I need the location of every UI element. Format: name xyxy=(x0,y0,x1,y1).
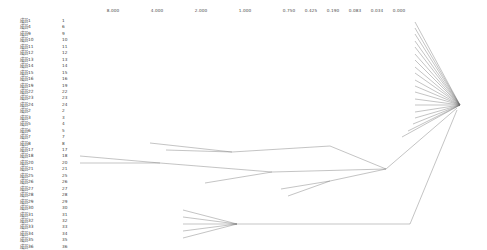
scale-tick-2: 2.000 xyxy=(195,8,208,13)
leaf-row[interactable]: 成员3636 xyxy=(0,244,80,250)
tree-edge xyxy=(415,28,460,105)
tree-edge xyxy=(410,110,457,224)
tree-edge xyxy=(415,80,460,105)
tree-edge xyxy=(415,54,460,105)
tree-edge xyxy=(402,105,460,137)
tree-edge xyxy=(415,99,460,105)
tree-edge xyxy=(415,105,460,118)
tree-edge xyxy=(272,169,386,172)
tree-edge xyxy=(232,146,330,152)
scale-tick-1: 4.000 xyxy=(151,8,164,13)
tree-edge xyxy=(183,210,237,224)
tree-edge xyxy=(415,34,460,105)
scale-tick-3: 1.000 xyxy=(239,8,252,13)
tree-edge xyxy=(160,163,272,172)
scale-tick-8: 0.034 xyxy=(371,8,384,13)
tree-edge xyxy=(415,47,460,105)
tree-edge xyxy=(205,172,272,183)
tree-edge xyxy=(415,92,460,105)
tree-edge xyxy=(281,181,330,189)
tree-edge xyxy=(166,150,232,152)
tree-edge xyxy=(415,41,460,105)
tree-edge xyxy=(415,60,460,105)
scale-tick-5: 0.425 xyxy=(305,8,318,13)
tree-edge xyxy=(288,181,330,196)
tree-edge xyxy=(386,108,457,169)
tree-edge xyxy=(330,146,386,169)
tree-edge xyxy=(183,224,237,238)
tree-edge xyxy=(415,22,460,105)
scale-tick-4: 0.750 xyxy=(283,8,296,13)
tree-edge xyxy=(183,217,237,224)
tree-edge xyxy=(183,224,237,231)
scale-tick-0: 8.000 xyxy=(107,8,120,13)
dendrogram-figure: 8.0004.0002.0001.0000.7500.4250.1900.083… xyxy=(0,0,487,250)
tree-edge xyxy=(80,156,160,163)
tree-edge xyxy=(415,86,460,105)
tree-edge xyxy=(150,143,232,152)
scale-tick-9: 0.000 xyxy=(393,8,406,13)
tree-edge xyxy=(408,105,460,131)
scale-tick-6: 0.190 xyxy=(327,8,340,13)
scale-tick-7: 0.083 xyxy=(349,8,362,13)
tree-edge xyxy=(415,67,460,105)
tree-edge xyxy=(330,169,386,181)
tree-edge xyxy=(415,105,460,112)
leaf-label: 成员36 xyxy=(20,244,33,250)
tree-edge xyxy=(413,105,460,124)
leaf-index: 36 xyxy=(62,244,67,250)
tree-edge xyxy=(415,73,460,105)
